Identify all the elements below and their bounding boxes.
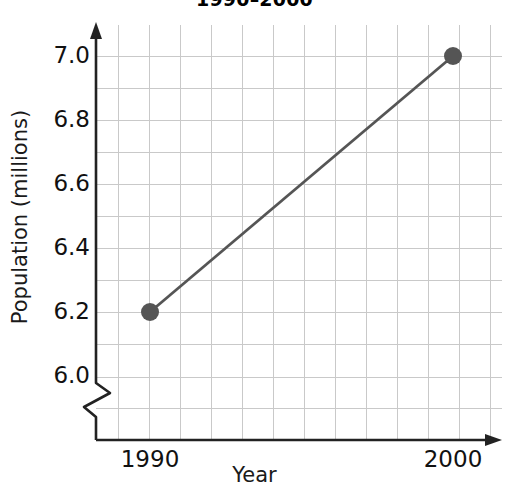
y-tick-label: 6.2 xyxy=(28,298,90,324)
data-layer xyxy=(96,25,502,440)
x-axis xyxy=(96,434,502,446)
y-tick-label: 6.4 xyxy=(28,234,90,260)
x-axis-title: Year xyxy=(0,463,509,487)
chart-title: 1990–2000 xyxy=(0,0,509,10)
data-point-1990 xyxy=(141,303,159,321)
data-point-2000 xyxy=(444,47,462,65)
y-axis-tick-labels: 7.0 6.8 6.6 6.4 6.2 6.0 xyxy=(28,25,90,440)
line-chart: 1990–2000 7.0 6.8 6.6 6.4 6.2 6.0 1990 2… xyxy=(0,0,509,495)
y-axis-title: Population (millions) xyxy=(8,67,32,367)
y-tick-label: 6.0 xyxy=(28,362,90,388)
y-tick-label: 7.0 xyxy=(28,42,90,68)
y-tick-label: 6.6 xyxy=(28,170,90,196)
plot-area xyxy=(96,25,502,440)
y-tick-label: 6.8 xyxy=(28,106,90,132)
y-axis-arrow xyxy=(90,22,102,39)
data-line-population xyxy=(150,56,453,312)
x-axis-arrow xyxy=(485,434,502,446)
